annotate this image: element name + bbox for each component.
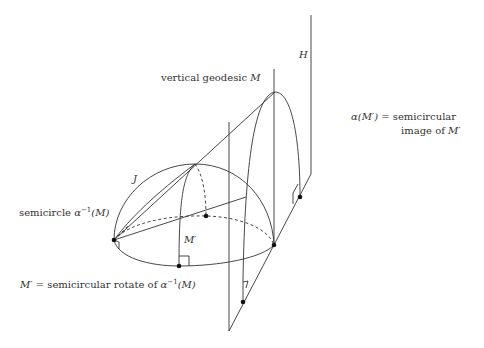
point-left [112,238,117,243]
plane-H [229,15,311,331]
point-right [272,243,277,248]
semicircle-alpha-M-prime [243,92,300,302]
hemisphere-arc-J [114,164,274,245]
geodesic-M-prime [179,164,195,266]
label-rotate-definition: M′ = semicircular rotate of α−1(M) [19,278,196,290]
chord-line-top [114,92,275,240]
label-H: H [298,49,308,60]
hyperbolic-geodesic-diagram: H vertical geodesic M J semicircle α−1(M… [0,0,484,348]
point-center [204,214,209,219]
point-lower [241,300,246,305]
label-semicircle-alpha-inverse: semicircle α−1(M) [19,206,109,218]
chord-line-middle [114,197,246,240]
label-vertical-geodesic: vertical geodesic M [160,72,261,83]
label-M-prime: M′ [183,234,197,245]
label-image-line1: α(M′) = semicircular [351,111,456,122]
label-image-line2: image of M′ [401,125,461,136]
label-J: J [131,173,138,184]
point-bottom [177,264,182,269]
point-on-H [298,195,303,200]
dashed-vertical [195,164,206,216]
right-angle-mark-lower [243,281,248,288]
